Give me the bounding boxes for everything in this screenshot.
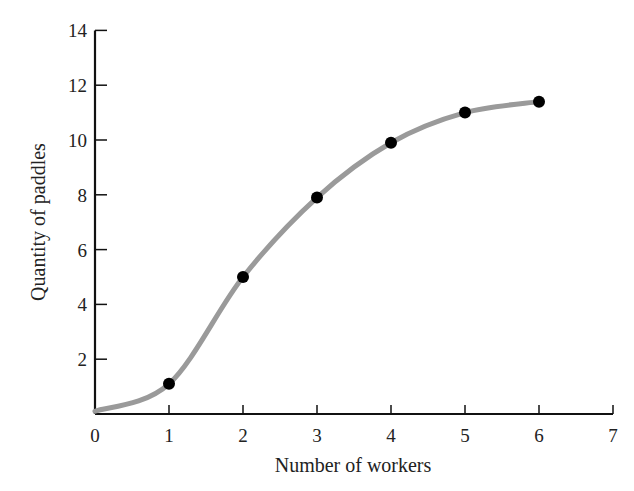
x-tick-label: 6 [534,425,544,446]
y-tick-label: 14 [68,20,88,41]
data-point [311,192,323,204]
x-tick-label: 1 [164,425,174,446]
y-tick-label: 12 [68,75,87,96]
y-axis-label: Quantity of paddles [27,143,50,301]
curve [95,102,539,412]
x-tick-label: 5 [460,425,470,446]
y-tick-label: 10 [68,130,87,151]
x-tick-label: 3 [312,425,322,446]
x-tick-label: 4 [386,425,396,446]
y-tick-label: 2 [78,349,88,370]
x-tick-label: 0 [90,425,100,446]
axes: 012345672468101214 [68,20,618,446]
data-point [459,107,471,119]
data-point [237,271,249,283]
y-tick-label: 8 [78,185,88,206]
x-axis-label: Number of workers [275,454,432,476]
y-tick-label: 6 [78,240,88,261]
x-tick-label: 2 [238,425,248,446]
data-point [533,96,545,108]
data-point [385,137,397,149]
y-tick-label: 4 [78,294,88,315]
chart: 012345672468101214 Number of workers Qua… [0,0,634,491]
x-tick-label: 7 [608,425,618,446]
data-points [163,96,545,390]
data-point [163,378,175,390]
